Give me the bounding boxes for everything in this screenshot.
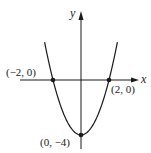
point-marker <box>79 133 84 138</box>
point-label-vertex: (0, −4) <box>40 137 70 148</box>
point-label-left: (−2, 0) <box>6 67 36 78</box>
x-axis-arrow-icon <box>131 78 139 83</box>
y-axis-arrow-icon <box>79 11 84 20</box>
y-axis-label: y <box>70 7 75 19</box>
x-axis-label: x <box>141 73 146 85</box>
point-label-right: (2, 0) <box>111 84 135 95</box>
point-marker <box>107 78 112 83</box>
point-marker <box>51 78 56 83</box>
